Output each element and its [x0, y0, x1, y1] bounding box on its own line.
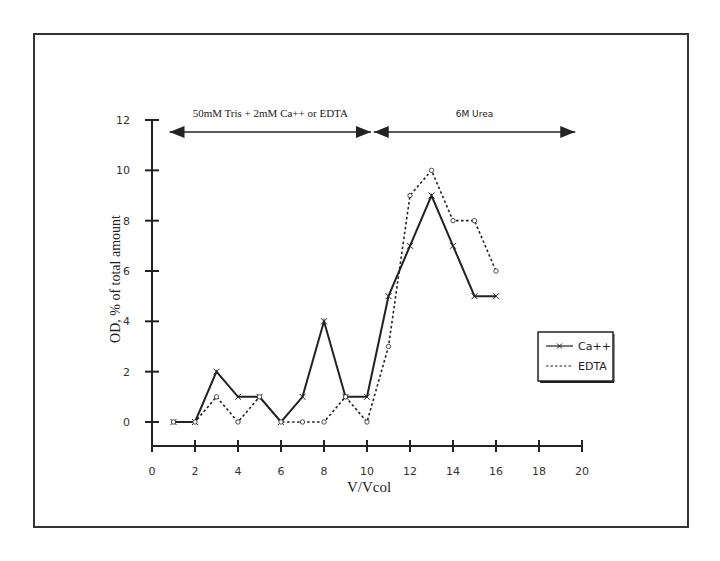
data-point-marker [494, 269, 498, 273]
line-chart: 02468101202468101214161820V/VcolOD, % of… [0, 0, 720, 561]
data-point-marker [171, 420, 175, 424]
y-tick-label: 4 [123, 315, 130, 328]
legend: Ca++EDTA [538, 332, 614, 382]
y-tick-label: 12 [116, 114, 130, 127]
series-line-ca [174, 196, 497, 423]
data-point-marker [343, 395, 347, 399]
data-point-marker [408, 193, 412, 197]
x-tick-label: 12 [403, 465, 417, 478]
x-tick-label: 18 [532, 465, 546, 478]
urea-annotation-label: 6M Urea [456, 109, 494, 119]
data-point-marker [386, 344, 390, 348]
y-tick-label: 0 [123, 416, 130, 429]
series-line-edta [174, 170, 497, 422]
series-lines [171, 168, 500, 425]
data-point-marker [429, 168, 433, 172]
x-tick-label: 2 [192, 465, 199, 478]
data-point-marker [193, 420, 197, 424]
x-tick-label: 16 [489, 465, 503, 478]
x-tick-label: 0 [149, 465, 156, 478]
data-point-marker [257, 395, 261, 399]
y-axis-label: OD, % of total amount [108, 215, 123, 343]
x-tick-label: 20 [575, 465, 589, 478]
x-tick-label: 8 [321, 465, 328, 478]
axes: 02468101202468101214161820V/VcolOD, % of… [108, 114, 589, 495]
data-point-marker [236, 420, 240, 424]
x-axis-label: V/Vcol [347, 479, 391, 495]
x-tick-label: 14 [446, 465, 460, 478]
legend-label: EDTA [578, 360, 607, 373]
buffer-annotation-label: 50mM Tris + 2mM Ca++ or EDTA [193, 107, 348, 119]
legend-label: Ca++ [578, 340, 611, 353]
data-point-marker [214, 395, 218, 399]
y-tick-label: 2 [123, 366, 130, 379]
data-point-marker [322, 420, 326, 424]
annotations: 50mM Tris + 2mM Ca++ or EDTA6M Urea [170, 107, 576, 132]
x-tick-label: 6 [278, 465, 285, 478]
data-point-marker [300, 420, 304, 424]
data-point-marker [365, 420, 369, 424]
y-tick-label: 6 [123, 265, 130, 278]
y-tick-label: 10 [116, 164, 130, 177]
x-tick-label: 4 [235, 465, 242, 478]
y-tick-label: 8 [123, 215, 130, 228]
data-point-marker [472, 218, 476, 222]
x-tick-label: 10 [360, 465, 374, 478]
data-point-marker [279, 420, 283, 424]
data-point-marker [451, 218, 455, 222]
